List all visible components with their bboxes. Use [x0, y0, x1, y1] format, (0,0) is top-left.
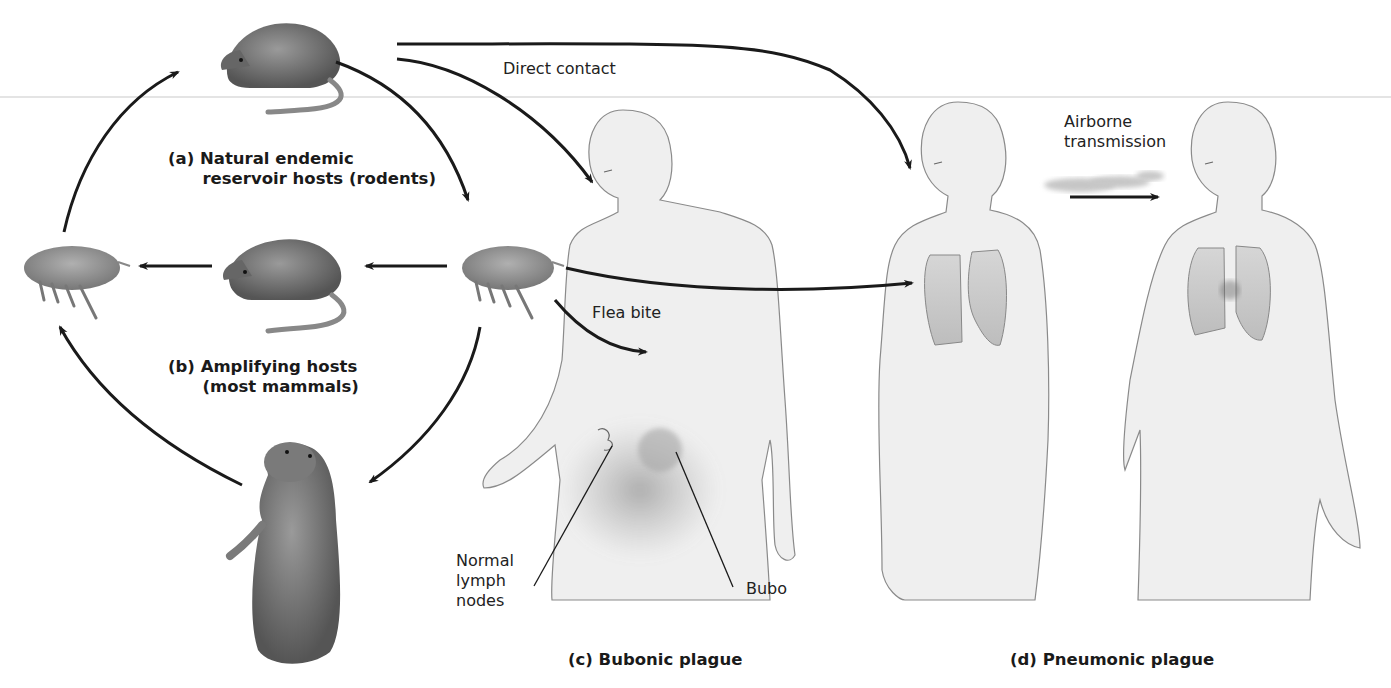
bubo-label: Bubo	[746, 579, 787, 599]
panel-a-label: (a) Natural endemic reservoir hosts (rod…	[168, 149, 436, 189]
prairie-dog-icon	[230, 442, 340, 664]
flea-bite-label: Flea bite	[592, 303, 661, 323]
panel-c-label: (c) Bubonic plague	[568, 650, 742, 670]
panel-b-label: (b) Amplifying hosts (most mammals)	[168, 357, 359, 397]
airborne-transmission-label: Airborne transmission	[1064, 112, 1166, 152]
airborne-droplets	[1044, 171, 1164, 192]
direct-contact-label: Direct contact	[503, 59, 616, 79]
arrow-prairie-dog-to-flea	[60, 327, 242, 485]
rat-icon-top	[221, 23, 341, 112]
human-figure-bubonic	[483, 110, 795, 600]
rat-icon-middle	[223, 239, 344, 331]
human-figure-pneumonic-source	[879, 102, 1049, 600]
flea-icon-left	[24, 246, 130, 318]
normal-lymph-nodes-label: Normal lymph nodes	[456, 551, 514, 611]
diagram-artwork	[0, 0, 1391, 688]
arrow-flea-to-rodent	[64, 72, 178, 232]
arrow-flea-to-prairie-dog	[370, 327, 480, 482]
flea-icon-right	[462, 246, 564, 318]
panel-d-label: (d) Pneumonic plague	[1010, 650, 1214, 670]
